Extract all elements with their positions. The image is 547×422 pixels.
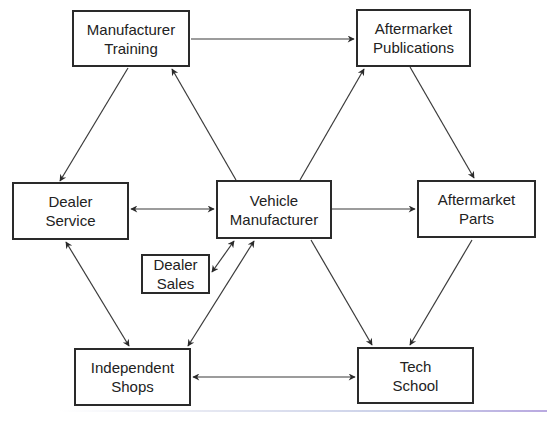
edge-dealer-service-independent-shops	[66, 242, 129, 346]
node-dealer-sales: Dealer Sales	[141, 254, 210, 294]
node-tech-school: Tech School	[357, 347, 474, 404]
node-label-line2: Sales	[157, 274, 195, 293]
node-label-line2: Manufacturer	[230, 210, 318, 229]
node-label-line1: Independent	[91, 358, 174, 377]
node-label-line1: Aftermarket	[438, 190, 516, 209]
node-dealer-service: Dealer Service	[12, 182, 129, 240]
page-bottom-rule	[60, 410, 547, 412]
edge-publications-to-parts	[410, 67, 474, 178]
node-aftermarket-parts: Aftermarket Parts	[417, 180, 536, 238]
node-aftermarket-publications: Aftermarket Publications	[356, 9, 471, 67]
edge-training-to-dealer-service	[60, 68, 128, 181]
node-vehicle-manufacturer: Vehicle Manufacturer	[216, 180, 332, 239]
node-label-line2: Parts	[459, 209, 494, 228]
node-label-line1: Dealer	[48, 192, 92, 211]
edge-dealer-sales-vehicle	[212, 241, 234, 272]
node-label-line1: Dealer	[153, 255, 197, 274]
node-label-line2: Service	[45, 211, 95, 230]
node-manufacturer-training: Manufacturer Training	[72, 10, 190, 67]
node-label-line2: School	[393, 376, 439, 395]
edge-vehicle-to-training	[172, 69, 236, 180]
node-label-line2: Training	[104, 39, 158, 58]
edge-vehicle-to-publications	[300, 69, 364, 180]
edge-vehicle-to-tech-school	[311, 240, 372, 345]
node-label-line1: Manufacturer	[87, 20, 175, 39]
automotive-information-flow-diagram: Manufacturer Training Aftermarket Public…	[0, 0, 547, 422]
node-label-line1: Tech	[400, 357, 432, 376]
node-label-line1: Vehicle	[250, 191, 298, 210]
node-label-line1: Aftermarket	[375, 19, 453, 38]
node-independent-shops: Independent Shops	[74, 348, 191, 406]
node-label-line2: Publications	[373, 38, 454, 57]
edge-parts-to-tech-school	[410, 240, 472, 345]
node-label-line2: Shops	[111, 377, 154, 396]
